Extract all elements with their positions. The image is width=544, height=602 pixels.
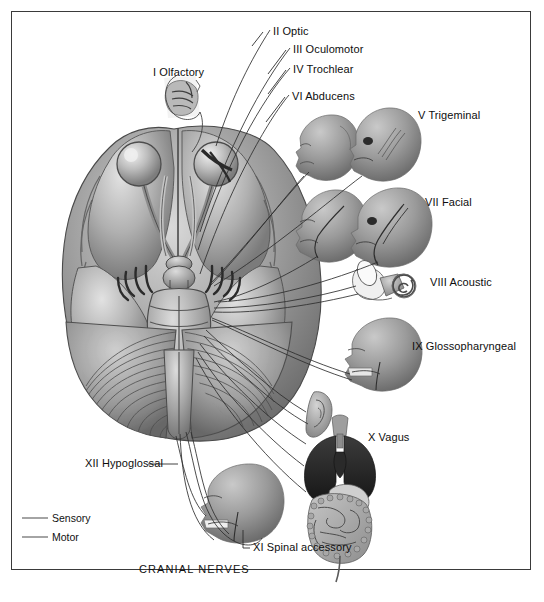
- legend-label-sensory: Sensory: [52, 512, 91, 524]
- label-x-vagus: X Vagus: [368, 432, 409, 443]
- figure-frame: [11, 11, 531, 570]
- legend-label-motor: Motor: [52, 531, 79, 543]
- label-vi-abducens: VI Abducens: [292, 91, 355, 102]
- label-i-olfactory: I Olfactory: [153, 67, 204, 78]
- label-iii-oculomotor: III Oculomotor: [293, 44, 363, 55]
- label-ix-glossopharyngeal: IX Glossopharyngeal: [412, 341, 516, 352]
- label-v-trigeminal: V Trigeminal: [418, 110, 480, 121]
- label-xi-spinal-accessory: XI Spinal accessory: [253, 542, 352, 553]
- cranial-nerves-figure: I Olfactory II Optic III Oculomotor IV T…: [0, 0, 544, 602]
- label-ii-optic: II Optic: [273, 26, 309, 37]
- label-xii-hypoglossal: XII Hypoglossal: [85, 458, 163, 469]
- label-iv-trochlear: IV Trochlear: [293, 64, 354, 75]
- label-vii-facial: VII Facial: [425, 197, 472, 208]
- label-viii-acoustic: VIII Acoustic: [430, 277, 492, 288]
- figure-caption: CRANIAL NERVES: [139, 563, 250, 575]
